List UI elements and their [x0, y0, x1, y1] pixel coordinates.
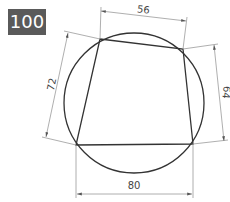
geometry-diagram: 56 64 72 80 [0, 0, 230, 202]
dimension-label-bottom: 80 [128, 180, 141, 191]
inscribed-quadrilateral [76, 39, 193, 145]
dimension-label-right: 64 [220, 85, 230, 99]
dimension-label-top: 56 [136, 3, 150, 15]
